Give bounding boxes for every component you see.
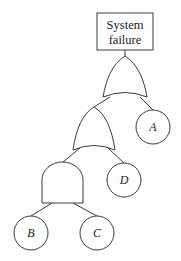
top-event-label-line2: failure [109, 33, 142, 47]
connector-and-to-c [73, 203, 97, 216]
basic-event-c: C [80, 216, 114, 250]
connector-or-to-a [140, 97, 153, 110]
connector-and-to-b [31, 203, 52, 216]
event-c-label: C [93, 226, 102, 240]
or-gate-icon [73, 107, 115, 150]
connector-or-to-or [94, 97, 110, 107]
basic-event-a: A [136, 110, 170, 144]
connector-or-to-and [63, 148, 80, 162]
top-event-label-line1: System [107, 18, 144, 32]
basic-event-b: B [14, 216, 48, 250]
top-event-box: System failure [97, 13, 153, 50]
event-a-label: A [148, 120, 157, 134]
basic-event-d: D [107, 163, 141, 197]
event-b-label: B [27, 226, 35, 240]
fault-tree-diagram: System failure A D B C [0, 0, 181, 261]
or-gate-icon [103, 56, 147, 97]
and-gate-icon [42, 162, 83, 203]
event-d-label: D [119, 173, 129, 187]
connector-or-to-d [108, 148, 124, 163]
